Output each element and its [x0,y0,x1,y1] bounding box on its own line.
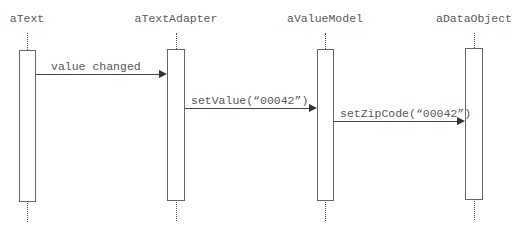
object-label-atextadapter: aTextAdapter [135,12,218,25]
lifeline-top-adataobject [474,33,475,48]
arrowhead-icon [457,117,465,125]
activation-bar-avaluemodel [317,49,334,201]
lifeline-bottom-avaluemodel [325,202,326,221]
object-label-avaluemodel: aValueModel [287,12,363,25]
object-label-adataobject: aDataObject [436,12,512,25]
activation-bar-atextadapter [167,49,185,201]
arrowhead-icon [309,104,317,112]
message-arrow-value-changed [36,74,160,75]
lifeline-bottom-adataobject [474,201,475,220]
message-label-setvalue: setValue(“00042”) [191,94,308,107]
lifeline-top-atextadapter [176,33,177,49]
lifeline-bottom-atext [27,203,28,222]
message-label-value-changed: value changed [51,60,141,73]
activation-bar-adataobject [465,48,483,200]
activation-bar-atext [19,50,36,202]
lifeline-top-atext [27,33,28,50]
lifeline-bottom-atextadapter [176,202,177,221]
lifeline-top-avaluemodel [325,33,326,49]
object-label-atext: aText [10,12,45,25]
arrowhead-icon [159,70,167,78]
message-label-setzipcode: setZipCode(“00042”) [340,107,471,120]
message-arrow-setzipcode [334,121,458,122]
message-arrow-setvalue [185,108,310,109]
